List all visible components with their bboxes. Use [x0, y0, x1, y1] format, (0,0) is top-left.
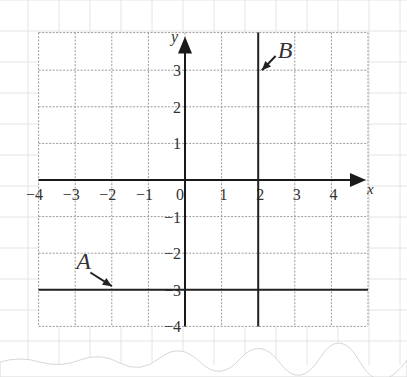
x-tick-label: −1 [136, 186, 153, 203]
x-tick-label: −3 [63, 186, 80, 203]
x-tick-label: −2 [99, 186, 116, 203]
x-tick-label: 0 [176, 186, 184, 203]
y-tick-label: −4 [164, 318, 181, 335]
y-tick-label: −2 [164, 245, 181, 262]
x-tick-label: 3 [293, 186, 301, 203]
line-a-label: A [74, 248, 91, 274]
x-tick-label: 4 [329, 186, 337, 203]
coordinate-plane: −4−3−2−101234−4−3−2−1123xyAB [0, 0, 407, 377]
coordinate-plane-figure: −4−3−2−101234−4−3−2−1123xyAB [0, 0, 407, 377]
torn-paper-edge [0, 343, 407, 377]
y-tick-label: 1 [173, 135, 181, 152]
y-axis-label: y [169, 28, 179, 46]
x-axis-label: x [366, 181, 374, 197]
x-tick-label: 1 [220, 186, 228, 203]
line-b-label: B [278, 37, 293, 63]
y-tick-label: 2 [173, 99, 181, 116]
y-tick-label: −1 [164, 209, 181, 226]
y-tick-label: 3 [173, 62, 181, 79]
x-tick-label: −4 [26, 186, 43, 203]
